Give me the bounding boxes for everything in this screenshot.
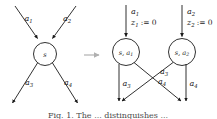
right-edge-label-reset-1: z1:=0 bbox=[130, 18, 157, 28]
left-diagram: a1 a2 s a3 a4 bbox=[13, 6, 78, 103]
right-edge-label-node1-a4: a4 bbox=[158, 77, 167, 87]
right-edge-label-action-2: a2 bbox=[187, 7, 196, 17]
figure-caption: Fig. 1. The ... distinguishes ... bbox=[48, 111, 168, 119]
right-diagram: a1 z1:=0 a2 z2:=0 s, a1 s, a2 bbox=[113, 5, 213, 101]
transition-system-diagram: a1 a2 s a3 a4 bbox=[0, 0, 217, 119]
left-edge-label-a4: a4 bbox=[64, 78, 73, 88]
right-edge-label-reset-2: z2:=0 bbox=[186, 18, 213, 28]
left-edge-label-a1: a1 bbox=[25, 14, 33, 24]
right-edge-label-node2-a3: a3 bbox=[160, 67, 169, 77]
left-edge-label-a2: a2 bbox=[63, 14, 72, 24]
figure-container: a1 a2 s a3 a4 bbox=[0, 0, 217, 119]
right-edge-label-action-1: a1 bbox=[131, 7, 139, 17]
right-edge-label-node1-a3: a3 bbox=[123, 79, 132, 89]
right-edge-label-node2-a4: a4 bbox=[190, 79, 199, 89]
left-edge-label-a3: a3 bbox=[25, 78, 34, 88]
